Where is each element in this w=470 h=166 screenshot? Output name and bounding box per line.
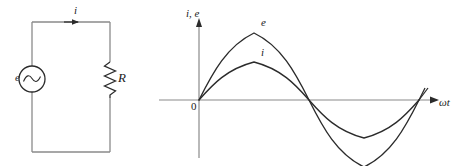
- curve-label-i: i: [261, 47, 264, 58]
- current-direction-arrow-icon: [64, 19, 79, 25]
- circuit-resistor-label: R: [118, 71, 126, 84]
- ac-sine-source-icon: [19, 66, 45, 92]
- x-axis-arrowhead: [430, 97, 439, 104]
- x-axis-label: ωt: [439, 97, 450, 108]
- zigzag-resistor-icon: [105, 62, 116, 98]
- circuit-source-label: e: [15, 72, 20, 83]
- circuit-current-label: i: [74, 5, 77, 16]
- y-axis-arrowhead: [196, 18, 202, 27]
- origin-label: 0: [191, 101, 197, 112]
- curve-label-e: e: [261, 17, 266, 28]
- figure-ac-circuit-and-waveforms: i e R i, e ωt e i 0: [0, 0, 470, 166]
- figure-canvas: [0, 0, 470, 166]
- waveform-plot: [159, 18, 439, 166]
- circuit-diagram: [19, 19, 116, 152]
- y-axis-label: i, e: [186, 8, 199, 19]
- y-axis: [196, 18, 202, 158]
